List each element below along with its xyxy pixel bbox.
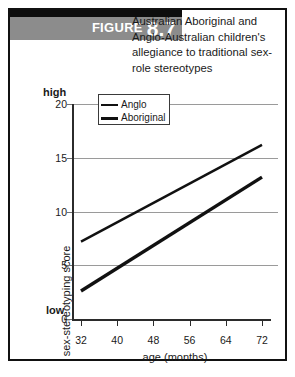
x-tick xyxy=(262,321,263,326)
figure-title: Australian Aboriginal and Anglo-Australi… xyxy=(132,14,282,76)
x-axis-title: age (months) xyxy=(72,351,278,363)
figure-card: FIGURE 8.7 Australian Aboriginal and Ang… xyxy=(8,8,287,361)
legend-item-anglo: Anglo xyxy=(101,98,147,112)
y-tick-label: 5 xyxy=(42,259,67,271)
y-tick-label: 15 xyxy=(42,152,67,164)
x-axis-line xyxy=(72,319,271,321)
x-tick-label: 64 xyxy=(220,334,232,346)
legend-label: Anglo xyxy=(121,100,147,110)
x-tick xyxy=(226,321,227,326)
x-tick xyxy=(117,321,118,326)
y-axis-tick-labels: 05101520 xyxy=(42,104,67,319)
y-tick-label: 20 xyxy=(42,98,67,110)
x-tick-label: 72 xyxy=(256,334,268,346)
x-tick xyxy=(190,321,191,326)
plot-area: AngloAboriginal xyxy=(72,104,278,319)
x-tick-label: 40 xyxy=(111,334,123,346)
x-tick-label: 48 xyxy=(148,334,160,346)
y-axis-high-label: high xyxy=(43,86,66,98)
x-tick xyxy=(81,321,82,326)
legend-item-aboriginal: Aboriginal xyxy=(101,111,165,125)
x-tick-label: 32 xyxy=(75,334,87,346)
y-tick-label: 10 xyxy=(42,206,67,218)
chart-legend: AngloAboriginal xyxy=(98,94,170,125)
y-tick-label: 0 xyxy=(42,313,67,325)
x-tick-label: 56 xyxy=(184,334,196,346)
legend-swatch-icon xyxy=(101,104,118,106)
legend-swatch-icon xyxy=(101,117,118,120)
data-lines xyxy=(72,104,278,319)
x-tick xyxy=(153,321,154,326)
legend-label: Aboriginal xyxy=(121,113,165,123)
